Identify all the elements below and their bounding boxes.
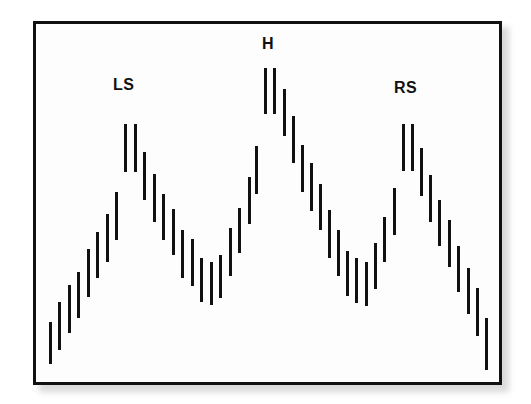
price-bar: [124, 124, 127, 172]
price-bar: [457, 246, 460, 292]
price-bar: [255, 146, 258, 194]
price-bar: [134, 124, 137, 172]
price-bar: [374, 243, 377, 289]
price-bar: [346, 251, 349, 296]
price-bar: [467, 268, 470, 314]
price-bar: [210, 262, 213, 305]
price-bar: [301, 145, 304, 192]
price-bar: [200, 258, 203, 302]
price-bar: [96, 232, 99, 278]
price-bar: [365, 262, 368, 306]
plot-area: [36, 24, 499, 382]
price-bar: [68, 285, 71, 333]
price-bar: [355, 258, 358, 303]
price-bar: [143, 152, 146, 200]
price-bar: [58, 302, 61, 350]
price-bar: [238, 208, 241, 253]
price-bar: [485, 318, 488, 370]
price-bar: [191, 239, 194, 286]
price-bar: [77, 272, 80, 318]
price-bar: [49, 322, 52, 364]
price-bar: [393, 188, 396, 235]
chart-figure: LS H RS: [0, 0, 531, 404]
price-bar: [420, 148, 423, 196]
price-bar: [219, 255, 222, 298]
price-bar: [153, 174, 156, 222]
price-bar: [319, 184, 322, 230]
price-bar: [87, 249, 90, 297]
price-bar: [181, 230, 184, 278]
price-bar: [273, 68, 276, 114]
price-bar: [429, 175, 432, 222]
price-bar: [264, 68, 267, 114]
price-bar: [448, 220, 451, 267]
price-bar: [229, 228, 232, 276]
price-bar: [310, 163, 313, 211]
price-bar: [476, 288, 479, 336]
price-bar: [328, 210, 331, 258]
right-shoulder-label: RS: [394, 80, 417, 96]
price-bar: [172, 209, 175, 255]
price-bar: [411, 124, 414, 171]
head-label: H: [262, 36, 274, 52]
price-bar: [438, 200, 441, 246]
price-bar: [292, 116, 295, 163]
price-bar: [106, 214, 109, 262]
price-bar: [162, 194, 165, 240]
price-bar: [337, 230, 340, 276]
left-shoulder-label: LS: [113, 77, 134, 93]
price-bar: [402, 124, 405, 171]
price-bar: [115, 192, 118, 240]
chart-frame: LS H RS: [33, 21, 502, 385]
price-bar: [248, 177, 251, 224]
price-bar: [283, 89, 286, 136]
price-bar: [383, 217, 386, 262]
